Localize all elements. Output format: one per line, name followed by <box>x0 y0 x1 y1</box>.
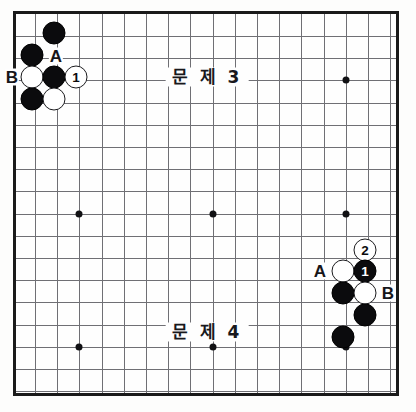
grid-line-vertical <box>390 14 391 393</box>
star-point <box>76 343 83 350</box>
grid-line-horizontal <box>16 103 396 104</box>
stone-black[interactable] <box>21 44 44 67</box>
problem-4-label: 문 제 4 <box>166 323 249 342</box>
stone-black[interactable] <box>332 326 355 349</box>
stone-black[interactable] <box>332 282 355 305</box>
grid-line-horizontal <box>16 125 396 126</box>
marker-a-top: A <box>49 48 63 65</box>
grid-line-horizontal <box>16 36 396 37</box>
stone-white[interactable] <box>354 282 377 305</box>
marker-a-bottom: A <box>313 263 327 280</box>
numbered-stone-white[interactable]: 1 <box>65 66 88 89</box>
grid-line-horizontal <box>16 258 396 259</box>
stone-black[interactable] <box>43 66 66 89</box>
grid-line-horizontal <box>16 169 396 170</box>
grid-line-horizontal <box>16 369 396 370</box>
stone-white[interactable] <box>43 88 66 111</box>
star-point <box>209 210 216 217</box>
star-point <box>76 210 83 217</box>
grid-line-horizontal <box>16 391 396 392</box>
numbered-stone-white[interactable]: 2 <box>354 239 377 262</box>
grid-line-vertical <box>279 14 280 393</box>
grid-line-horizontal <box>16 58 396 59</box>
grid-line-vertical <box>257 14 258 393</box>
stone-move-number: 2 <box>355 240 376 261</box>
grid-line-vertical <box>146 14 147 393</box>
grid-line-vertical <box>102 14 103 393</box>
star-point <box>342 77 349 84</box>
stone-move-number: 1 <box>355 261 376 282</box>
numbered-stone-black[interactable]: 1 <box>354 260 377 283</box>
marker-b-top: B <box>5 69 19 86</box>
star-point <box>209 343 216 350</box>
grid-line-vertical <box>368 14 369 393</box>
grid-line-vertical <box>301 14 302 393</box>
star-point <box>342 210 349 217</box>
marker-b-bottom: B <box>381 285 395 302</box>
grid-line-horizontal <box>16 147 396 148</box>
problem-3-label: 문 제 3 <box>166 68 249 87</box>
grid-line-horizontal <box>16 236 396 237</box>
go-board-diagram: 121 ABAB 문 제 3문 제 4 <box>0 0 416 412</box>
stone-white[interactable] <box>21 66 44 89</box>
grid-line-vertical <box>124 14 125 393</box>
grid-line-vertical <box>324 14 325 393</box>
grid-line-horizontal <box>16 191 396 192</box>
grid-line-horizontal <box>16 214 396 215</box>
stone-white[interactable] <box>332 260 355 283</box>
stone-black[interactable] <box>21 88 44 111</box>
stone-move-number: 1 <box>66 67 87 88</box>
stone-black[interactable] <box>354 304 377 327</box>
stone-black[interactable] <box>43 22 66 45</box>
